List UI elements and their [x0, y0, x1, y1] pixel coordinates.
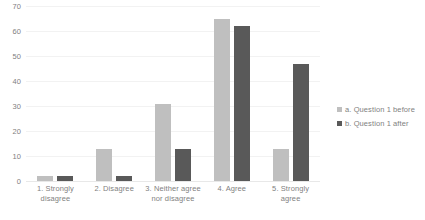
- bar-group: [202, 6, 261, 181]
- bar[interactable]: [57, 176, 73, 181]
- legend-label: a. Question 1 before: [345, 105, 415, 114]
- bar-group: [261, 6, 320, 181]
- bar-chart: 70 60 50 40 30 20 10 0 1. Strongly disag…: [0, 0, 425, 220]
- x-tick-label: 4. Agree: [202, 184, 261, 204]
- bar-group: [144, 6, 203, 181]
- bar[interactable]: [155, 104, 171, 182]
- y-tick-label: 0: [17, 177, 21, 186]
- gridline-0: [26, 181, 320, 182]
- bar-group: [26, 6, 85, 181]
- y-tick-label: 70: [12, 2, 21, 11]
- bar[interactable]: [175, 149, 191, 182]
- bar[interactable]: [214, 19, 230, 182]
- y-tick-label: 50: [12, 52, 21, 61]
- y-axis: 70 60 50 40 30 20 10 0: [0, 0, 26, 187]
- x-tick-label: 3. Neither agree nor disagree: [144, 184, 203, 204]
- x-tick-label: 5. Strongly agree: [261, 184, 320, 204]
- bar-group: [85, 6, 144, 181]
- y-tick-label: 60: [12, 27, 21, 36]
- y-tick-label: 40: [12, 77, 21, 86]
- y-tick-label: 10: [12, 152, 21, 161]
- y-tick-label: 20: [12, 127, 21, 136]
- bar[interactable]: [234, 26, 250, 181]
- legend: a. Question 1 before b. Question 1 after: [337, 105, 415, 128]
- bar[interactable]: [37, 176, 53, 181]
- legend-swatch-icon: [337, 107, 342, 112]
- y-tick-label: 30: [12, 102, 21, 111]
- legend-item-before[interactable]: a. Question 1 before: [337, 105, 415, 114]
- x-axis: 1. Strongly disagree2. Disagree3. Neithe…: [26, 184, 320, 204]
- x-tick-label: 1. Strongly disagree: [26, 184, 85, 204]
- x-tick-label: 2. Disagree: [85, 184, 144, 204]
- bar[interactable]: [116, 176, 132, 181]
- bar[interactable]: [273, 149, 289, 182]
- legend-swatch-icon: [337, 121, 342, 126]
- legend-item-after[interactable]: b. Question 1 after: [337, 119, 415, 128]
- bar[interactable]: [293, 64, 309, 182]
- bar[interactable]: [96, 149, 112, 182]
- bar-groups: [26, 6, 320, 181]
- legend-label: b. Question 1 after: [345, 119, 409, 128]
